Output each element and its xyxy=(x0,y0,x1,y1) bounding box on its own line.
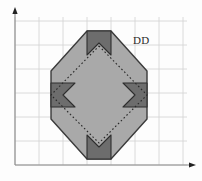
dd-label: DD xyxy=(133,34,150,46)
geometry-diagram xyxy=(0,0,202,181)
figure-canvas: DD xyxy=(0,0,202,181)
